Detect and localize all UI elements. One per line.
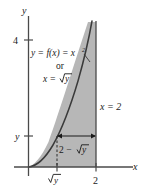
y-tick-label-4: 4: [13, 35, 18, 46]
x-tick-label-sqrt-y-var: y: [53, 175, 58, 185]
curve-equation-connector: or: [56, 61, 65, 71]
curve-equation-line3: x = y: [42, 74, 72, 85]
curve-equation-line1-exponent: 2: [82, 47, 85, 53]
area-under-curve-figure: y x 4 y 2 y y = f(x) = x 2 or x = y x =: [0, 0, 146, 194]
curve-equation-line1-text: y = f(x) = x: [30, 48, 76, 59]
width-label-lhs: 2 −: [59, 145, 71, 155]
figure-container: y x 4 y 2 y y = f(x) = x 2 or x = y x =: [0, 0, 146, 194]
curve-equation-line3-lhs: x =: [42, 74, 56, 84]
width-label-radicand: y: [81, 145, 87, 155]
vertical-line-label: x = 2: [99, 101, 121, 112]
x-tick-label-2: 2: [93, 175, 98, 186]
curve-equation-line3-radicand: y: [64, 74, 70, 84]
y-axis-label: y: [21, 5, 27, 16]
x-tick-label-sqrt-y: y: [49, 174, 62, 185]
y-tick-label-y: y: [14, 131, 20, 142]
x-axis-label: x: [132, 161, 138, 172]
